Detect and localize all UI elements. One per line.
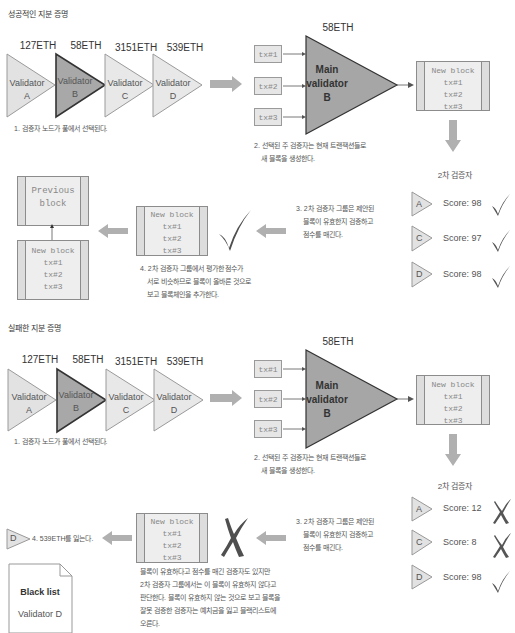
block-tx: tx#1 [137,528,207,540]
secondary-id: D [416,572,423,582]
block-title: New block [137,516,207,528]
arrowhead-icon [408,82,416,88]
arrow-right-icon [210,76,244,92]
validator-name: Validator [100,77,150,90]
validator-name: Validator [2,77,52,90]
main-label-line: Main [292,63,362,77]
step1-caption: 1. 검증자 노드가 풀에서 선택된다. [14,435,108,448]
block-tx: tx#2 [137,233,207,245]
main-label-line: B [292,91,362,105]
previous-block: Previous block [17,176,89,226]
validator-b[interactable]: Validator B [50,75,100,101]
block-tx: tx#1 [417,391,489,403]
step3-caption: 3. 2차 검증자 그룹은 제안된 블록이 유효한지 검증하고 점수를 매긴다. [296,202,374,241]
main-label-line: Main [292,379,362,393]
block-tx: tx#2 [417,89,489,101]
validator-id: D [148,90,198,103]
score-label: Score: 98 [443,572,482,582]
validator-c[interactable]: Validator C [100,77,150,103]
caption-line: 오른다. [140,617,280,630]
arrow-down-icon [445,120,461,152]
validator-id: D [149,404,199,417]
main-validator-label: Main validator B [292,379,362,421]
block-tx: tx#3 [18,281,88,293]
main-label-line: validator [292,77,362,91]
secondary-title: 2차 검증자 [425,480,485,491]
chain-new-block: New block tx#1 tx#2 tx#3 [17,240,89,300]
block-tx: tx#1 [417,77,489,89]
secondary-id: A [416,504,422,514]
secondary-id: D [416,269,423,279]
rejected-block: New block tx#1 tx#2 tx#3 [136,513,208,563]
validator-id: A [4,404,54,417]
score-label: Score: 98 [443,269,482,279]
caption-line: 4. 2차 검증자 그룹에서 평가한 점수가 [140,262,251,275]
validator-d[interactable]: Validator D [148,77,198,103]
block-tx: tx#3 [417,101,489,113]
caption-line: 블록이 유효한지 검증하고 [296,215,374,228]
arrow-left-icon [98,224,130,238]
caption-line: 서로 비슷하므로 블록이 올바른 것으로 [140,275,251,288]
validator-name: Validator [148,77,198,90]
validator-name: Validator [4,391,54,404]
step4-caption: 4. 2차 검증자 그룹에서 평가한 점수가 서로 비슷하므로 블록이 올바른 … [140,262,251,301]
arrow-down-icon [445,434,461,466]
block-title: block [18,198,88,211]
check-icon [492,266,510,288]
secondary-id: C [416,537,423,547]
block-title: New block [137,209,207,221]
blacklist-title: Black list [8,587,72,597]
validator-name: Validator [51,389,101,402]
check-icon [492,194,510,216]
caption-line: 블록이 유효하다고 점수를 매긴 검증자도 있지만 [140,565,280,578]
caption-line: 보고 블록체인을 추가한다. [140,288,251,301]
big-check-icon [218,208,252,252]
block-tx: tx#3 [137,552,207,564]
caption-line: 3. 2차 검증자 그룹은 제안된 [296,202,374,215]
check-icon [492,230,510,252]
new-block: New block tx#1 tx#2 tx#3 [416,61,490,111]
new-block: New block tx#1 tx#2 tx#3 [416,375,490,425]
validator-name: Validator [149,391,199,404]
check-icon [492,571,510,593]
block-title: Previous [18,185,88,198]
arrow-left-icon [256,224,288,238]
block-title: New block [417,379,489,391]
cross-icon [493,533,511,558]
arrow-right-icon [210,390,244,406]
secondary-id: A [416,199,422,209]
main-label-line: validator [292,393,362,407]
loss-validator-id: D [10,533,17,543]
score-label: Score: 8 [443,537,477,547]
big-cross-icon [220,516,250,558]
secondary-title: 2차 검증자 [425,169,485,180]
main-stake-label: 58ETH [308,336,368,347]
validator-id: C [100,90,150,103]
caption-line: 판단한다. 블록이 유효하지 않는 것으로 보고 블록을 [140,591,280,604]
approved-block: New block tx#1 tx#2 tx#3 [136,206,208,256]
check-icons [490,192,512,302]
validator-c[interactable]: Validator C [101,391,151,417]
caption-line: 새 블록을 생성한다. [254,152,366,165]
stake-label: 539ETH [155,356,215,367]
validator-a[interactable]: Validator A [4,391,54,417]
result-icons [490,497,514,607]
validator-d[interactable]: Validator D [149,391,199,417]
section-title: 성공적인 지분 증명 [8,8,68,19]
block-tx: tx#1 [18,257,88,269]
score-label: Score: 12 [443,503,482,513]
step4-note: 블록이 유효하다고 점수를 매긴 검증자도 있지만 2차 검증자 그룹에서는 이… [140,565,280,630]
step3-caption: 3. 2차 검증자 그룹은 제안된 블록이 유효한지 검증하고 점수를 매긴다. [296,515,374,554]
validator-b[interactable]: Validator B [51,389,101,415]
cross-icon [493,499,511,524]
main-validator-label: Main validator B [292,63,362,105]
main-stake-label: 58ETH [308,22,368,33]
main-label-line: B [292,407,362,421]
arrow-left-icon [256,531,288,545]
validator-a[interactable]: Validator A [2,77,52,103]
validator-id: B [51,402,101,415]
validator-id: A [2,90,52,103]
validator-id: C [101,404,151,417]
loss-caption: 4. 539ETH를 잃는다. [32,532,93,545]
block-tx: tx#2 [137,540,207,552]
